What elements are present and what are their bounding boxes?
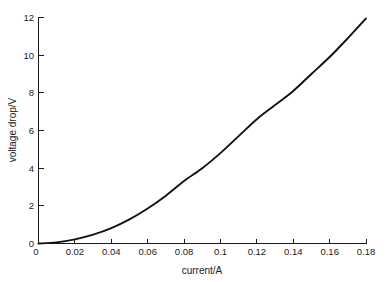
x-tick-label: 0.12 bbox=[248, 246, 267, 257]
x-tick-label: 0.08 bbox=[175, 246, 194, 257]
y-tick-labels: 0 2 4 6 8 10 12 bbox=[23, 12, 34, 249]
x-axis-title: current/A bbox=[182, 265, 223, 276]
data-curve-voltage-drop bbox=[39, 18, 367, 243]
y-tick-label: 2 bbox=[29, 200, 34, 211]
x-tick-label: 0.14 bbox=[284, 246, 303, 257]
y-axis-title: voltage drop/V bbox=[7, 97, 18, 162]
x-tick-label: 0.06 bbox=[138, 246, 157, 257]
y-tick-label: 12 bbox=[23, 12, 34, 23]
y-tick-label: 10 bbox=[23, 50, 34, 61]
x-tick-label: 0.1 bbox=[214, 246, 227, 257]
y-tick-marks bbox=[39, 18, 44, 244]
x-tick-label: 0.04 bbox=[102, 246, 121, 257]
chart-canvas: 0 2 4 6 8 10 12 0 0.02 0.04 0.06 0.08 0.… bbox=[0, 0, 388, 282]
x-tick-labels: 0 0.02 0.04 0.06 0.08 0.1 0.12 0.14 0.16… bbox=[33, 246, 375, 257]
y-tick-label: 8 bbox=[29, 87, 34, 98]
y-tick-label: 4 bbox=[29, 163, 34, 174]
x-tick-label: 0 bbox=[33, 246, 38, 257]
x-tick-label: 0.18 bbox=[357, 246, 376, 257]
x-tick-label: 0.16 bbox=[320, 246, 339, 257]
x-tick-label: 0.02 bbox=[66, 246, 85, 257]
y-tick-label: 6 bbox=[29, 125, 34, 136]
x-tick-marks bbox=[75, 239, 366, 244]
chart-figure: 0 2 4 6 8 10 12 0 0.02 0.04 0.06 0.08 0.… bbox=[0, 0, 388, 282]
